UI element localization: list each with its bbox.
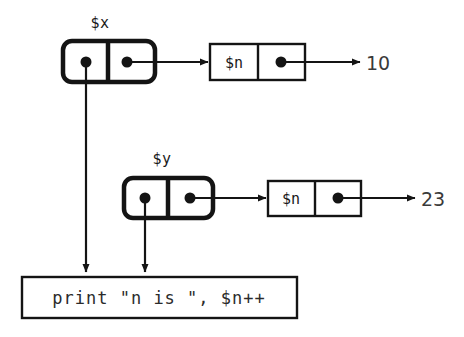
value-top: 10 [366,52,390,74]
reference-diagram: $x $n 10 $y $n 23 print "n is ", $n++ [0,0,464,337]
code-block-text: print "n is ", $n++ [52,288,265,308]
n-cell-top-label: $n [225,54,243,72]
x-variable-label: $x [90,14,109,32]
y-variable-label: $y [152,150,171,168]
value-bottom: 23 [421,188,445,210]
diagram-canvas: $x $n 10 $y $n 23 print "n is ", $n++ [0,0,464,337]
n-cell-bottom-label: $n [282,190,300,208]
